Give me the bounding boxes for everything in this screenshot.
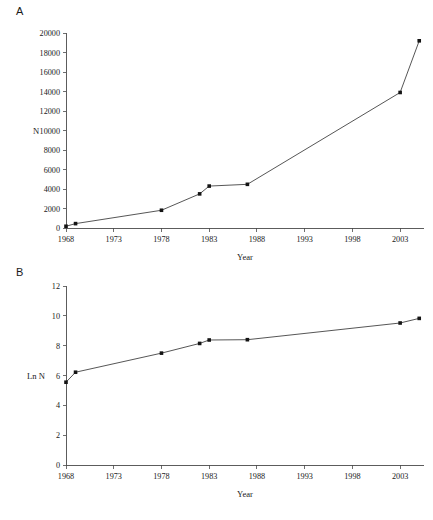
chart-b-svg: 0246810121968197319781983198819931998200…: [0, 262, 433, 510]
y-tick-label: 0: [56, 224, 60, 233]
chart-a-svg: 0200040006000800010000120001400016000180…: [0, 0, 433, 268]
data-point-marker: [246, 338, 250, 342]
y-tick-label: 10: [52, 312, 60, 321]
x-axis-title: Year: [237, 252, 253, 262]
y-tick-label: 12000: [40, 107, 60, 116]
x-tick-label: 1988: [249, 472, 265, 481]
figure-caption: [8, 508, 428, 519]
x-tick-label: 1998: [344, 235, 360, 244]
x-tick-label: 1988: [249, 235, 265, 244]
data-point-marker: [198, 342, 202, 346]
data-point-marker: [160, 351, 164, 355]
y-tick-label: 4000: [44, 185, 60, 194]
data-point-marker: [160, 208, 164, 212]
data-point-marker: [417, 39, 421, 43]
chart-panel-a: A 02000400060008000100001200014000160001…: [0, 0, 433, 268]
figure-container: A 02000400060008000100001200014000160001…: [0, 0, 433, 520]
data-point-marker: [64, 380, 68, 384]
x-tick-label: 1983: [201, 235, 217, 244]
data-point-marker: [246, 183, 250, 187]
data-point-marker: [398, 91, 402, 95]
x-tick-label: 1968: [58, 235, 74, 244]
x-tick-label: 1973: [106, 235, 122, 244]
y-tick-label: 0: [56, 461, 60, 470]
y-axis-title: Ln N: [27, 371, 46, 381]
x-tick-label: 1973: [106, 472, 122, 481]
series-line: [66, 318, 419, 382]
y-tick-label: 4: [56, 401, 60, 410]
y-tick-label: 2: [56, 431, 60, 440]
x-tick-label: 2003: [392, 235, 408, 244]
x-tick-label: 1968: [58, 472, 74, 481]
data-point-marker: [74, 370, 78, 374]
data-point-marker: [74, 222, 78, 226]
x-tick-label: 1993: [296, 472, 312, 481]
y-tick-label: 18000: [40, 49, 60, 58]
data-point-marker: [207, 184, 211, 188]
data-point-marker: [398, 321, 402, 325]
panel-label-b: B: [16, 266, 24, 278]
data-point-marker: [64, 224, 68, 228]
x-tick-label: 2003: [392, 472, 408, 481]
data-point-marker: [417, 317, 421, 321]
y-tick-label: 12: [52, 282, 60, 291]
y-tick-label: 6000: [44, 166, 60, 175]
y-tick-label: 8000: [44, 146, 60, 155]
y-tick-label: 16000: [40, 68, 60, 77]
y-tick-label: 2000: [44, 205, 60, 214]
data-point-marker: [207, 338, 211, 342]
y-tick-label: 6: [56, 372, 60, 381]
x-tick-label: 1993: [296, 235, 312, 244]
series-line: [66, 41, 419, 226]
x-tick-label: 1978: [153, 472, 169, 481]
x-tick-label: 1998: [344, 472, 360, 481]
y-axis-title: N: [33, 126, 40, 136]
x-tick-label: 1978: [153, 235, 169, 244]
x-tick-label: 1983: [201, 472, 217, 481]
x-axis-title: Year: [237, 489, 253, 499]
y-tick-label: 20000: [40, 29, 60, 38]
y-tick-label: 8: [56, 342, 60, 351]
y-tick-label: 14000: [40, 88, 60, 97]
y-tick-label: 10000: [40, 127, 60, 136]
data-point-marker: [198, 192, 202, 196]
chart-panel-b: B 02468101219681973197819831988199319982…: [0, 262, 433, 510]
panel-label-a: A: [16, 5, 24, 17]
